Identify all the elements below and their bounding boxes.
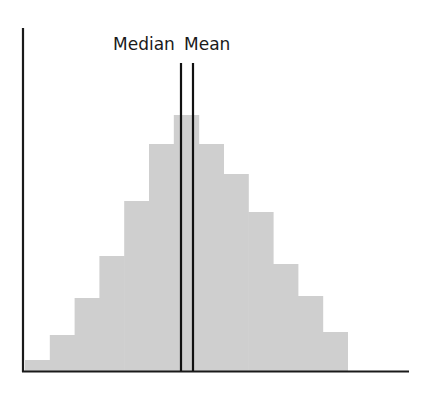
histogram-bar bbox=[223, 174, 248, 371]
histogram-bar bbox=[174, 115, 199, 371]
histogram-bar bbox=[273, 264, 298, 371]
histogram-bar bbox=[124, 201, 149, 371]
histogram-bars bbox=[25, 115, 348, 371]
histogram-bar bbox=[199, 144, 224, 371]
median-label: Median bbox=[113, 34, 175, 54]
mean-label: Mean bbox=[184, 34, 230, 54]
histogram-bar bbox=[248, 212, 273, 371]
histogram-bar bbox=[50, 335, 75, 371]
histogram-bar bbox=[25, 360, 50, 371]
histogram-bar bbox=[75, 298, 100, 371]
histogram-bar bbox=[298, 296, 323, 371]
histogram-bar bbox=[99, 256, 124, 371]
histogram-bar bbox=[323, 332, 348, 371]
histogram-chart bbox=[0, 0, 426, 398]
histogram-bar bbox=[149, 144, 174, 371]
